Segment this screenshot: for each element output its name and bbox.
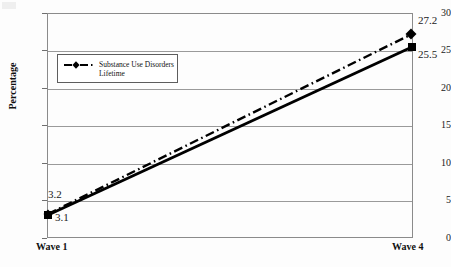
y-tick-label-15: 15 <box>425 120 451 130</box>
point-label-wave4-dashed: 27.2 <box>418 14 437 26</box>
y-tick-label-10: 10 <box>425 158 451 168</box>
y-axis-title: Percentage <box>7 94 18 110</box>
legend-entry: Substance Use Disorders Lifetime <box>64 60 177 78</box>
point-label-wave4-solid: 25.5 <box>418 48 437 60</box>
y-tick-mark-0 <box>42 238 47 239</box>
chart-figure: Percentage 30 25 20 15 10 5 0 3.2 3.1 27… <box>0 0 451 267</box>
gridline-25 <box>48 51 412 52</box>
x-tick-label-wave4: Wave 4 <box>392 241 423 252</box>
gridline-15 <box>48 126 412 127</box>
gridline-20 <box>48 89 412 90</box>
y-tick-label-5: 5 <box>425 195 451 205</box>
gridline-10 <box>48 164 412 165</box>
gridline-5 <box>48 201 412 202</box>
y-tick-label-20: 20 <box>425 83 451 93</box>
x-tick-label-wave1: Wave 1 <box>36 241 67 252</box>
scan-artifact <box>2 2 16 9</box>
legend-entry-label: Substance Use Disorders Lifetime <box>99 60 177 78</box>
point-label-wave1-dashed: 3.2 <box>48 188 62 200</box>
point-label-wave1-solid: 3.1 <box>55 211 69 223</box>
y-tick-label-0: 0 <box>425 233 451 243</box>
legend-line-sample-icon <box>64 60 96 70</box>
legend: Substance Use Disorders Lifetime <box>57 54 178 83</box>
plot-area <box>47 13 413 238</box>
